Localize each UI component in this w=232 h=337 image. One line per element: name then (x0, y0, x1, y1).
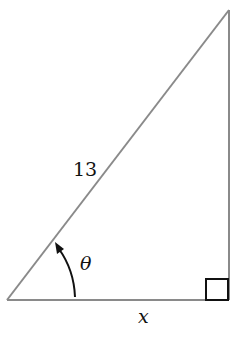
angle-arc-arrow-icon (59, 249, 75, 297)
hypotenuse-line (7, 10, 229, 300)
base-label: x (138, 307, 149, 326)
arrowhead-icon (55, 242, 64, 254)
hypotenuse-label: 13 (73, 160, 97, 179)
right-angle-marker (206, 279, 228, 300)
angle-label: θ (80, 254, 91, 273)
triangle-diagram (0, 0, 232, 337)
